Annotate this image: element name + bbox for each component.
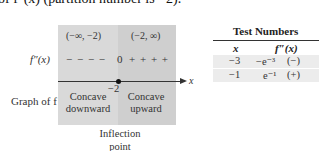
row-label-fpp: f″(x) <box>30 53 50 65</box>
cell-x: −1 <box>229 69 240 80</box>
inflection-point-label: Inflection point <box>95 127 145 151</box>
cell-x: −3 <box>229 55 240 66</box>
interval-left: (−∞, −2) <box>66 30 101 41</box>
axis-variable: x <box>189 75 193 86</box>
graph-label: Graph of f <box>11 95 57 107</box>
column-header-fpp: f″(x) <box>275 42 298 54</box>
signs-left: − − − − <box>66 53 106 65</box>
cell-value: e⁻¹ <box>263 69 276 81</box>
signs-right: + + + + <box>129 53 169 65</box>
concavity-left-line1: Concave <box>64 91 112 103</box>
concavity-left: Concave downward <box>64 91 112 115</box>
caption-fragment: of f″(x) (partition number is −2). <box>0 0 181 7</box>
table-title: Test Numbers <box>233 25 298 37</box>
concavity-right: Concave upward <box>126 91 166 115</box>
concavity-left-line2: downward <box>64 103 112 115</box>
concavity-right-line1: Concave <box>126 91 166 103</box>
inflection-line1: Inflection <box>95 127 145 140</box>
interval-right: (−2, ∞) <box>131 30 160 41</box>
cell-sign: (−) <box>287 55 300 66</box>
column-header-x: x <box>233 42 239 54</box>
cell-value: −e⁻³ <box>256 55 275 67</box>
arrow-right-icon <box>180 78 187 84</box>
concavity-right-line2: upward <box>126 103 166 115</box>
inflection-line2: point <box>95 140 145 151</box>
zero-mark: 0 <box>117 53 124 65</box>
cell-sign: (+) <box>287 69 300 80</box>
table-rule <box>213 40 319 41</box>
